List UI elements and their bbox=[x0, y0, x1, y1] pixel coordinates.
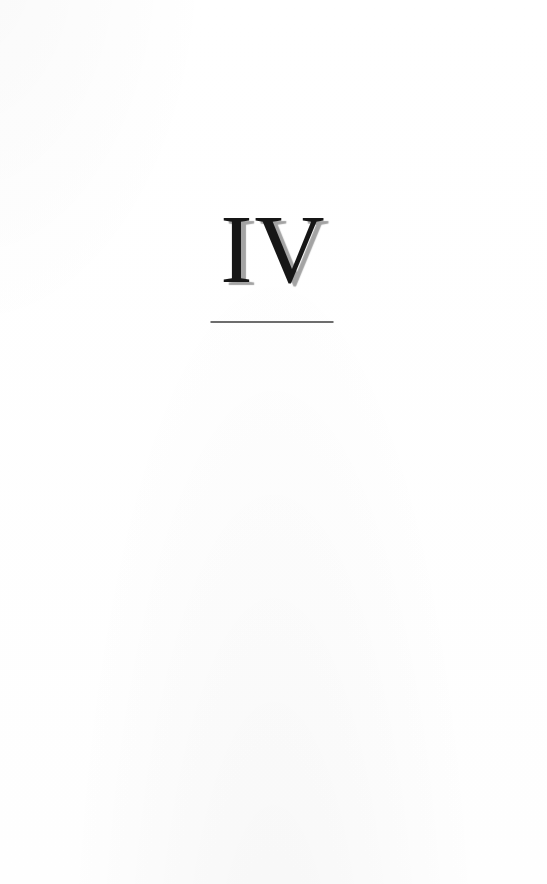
chapter-number: IV bbox=[0, 201, 547, 298]
book-page: IV bbox=[0, 0, 547, 884]
chapter-divider-rule bbox=[210, 321, 333, 323]
